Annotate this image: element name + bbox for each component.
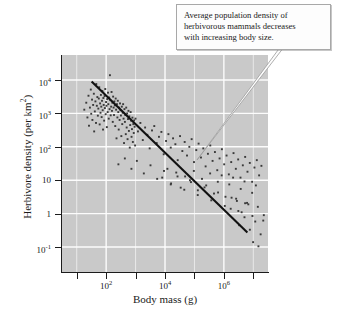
y-axis-title: Herbivore density (per km2) bbox=[19, 57, 33, 257]
y-tick bbox=[55, 247, 61, 248]
plot-panel bbox=[62, 55, 268, 272]
y-tick bbox=[55, 80, 61, 81]
scatter-plot-data bbox=[62, 55, 268, 272]
y-tick bbox=[55, 113, 61, 114]
figure-root: 102104106 10410310210110-1 Body mass (g)… bbox=[0, 0, 337, 315]
callout-box: Average population density of herbivorou… bbox=[176, 4, 331, 50]
x-tick bbox=[194, 273, 195, 279]
y-tick bbox=[55, 214, 61, 215]
x-tick bbox=[136, 273, 137, 279]
callout-line-1: Average population density of bbox=[184, 10, 324, 21]
x-tick bbox=[77, 273, 78, 279]
x-axis-title: Body mass (g) bbox=[62, 293, 268, 305]
y-tick bbox=[55, 147, 61, 148]
x-tick-label: 104 bbox=[145, 278, 185, 291]
x-tick bbox=[253, 273, 254, 279]
y-tick bbox=[55, 180, 61, 181]
y-axis-line bbox=[61, 55, 62, 273]
callout-line-3: with increasing body size. bbox=[184, 32, 324, 43]
x-tick-label: 102 bbox=[86, 278, 126, 291]
x-tick-label: 106 bbox=[204, 278, 244, 291]
callout-line-2: herbivorous mammals decreases bbox=[184, 21, 324, 32]
